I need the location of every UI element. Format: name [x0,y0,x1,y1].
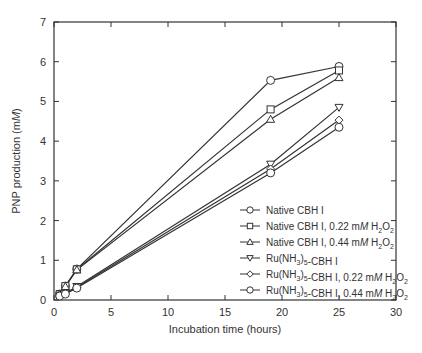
plot-frame [54,22,396,300]
x-tick-label: 15 [219,306,231,318]
x-tick-label: 10 [162,306,174,318]
diamond-marker-icon [247,271,253,277]
legend: Native CBH INative CBH I, 0.22 mM H2O2Na… [240,205,408,301]
legend-item: Native CBH I [240,205,324,216]
line-chart: 05101520253001234567 Incubation time (ho… [0,0,422,353]
legend-item: Ru(NH3)5-CBH I, 0.22 mM H2O2 [240,269,408,285]
x-axis-title: Incubation time (hours) [169,323,282,335]
y-axis-title: PNP production (mM) [10,108,22,214]
y-tick-label: 7 [40,16,46,28]
legend-label: Ru(NH3)5-CBH I, 0.22 mM H2O2 [266,269,408,285]
x-tick-label: 25 [333,306,345,318]
triangle-up-marker-icon [267,115,275,122]
y-tick-label: 0 [40,294,46,306]
y-tick-label: 4 [40,135,46,147]
circle-marker-icon [335,123,343,131]
legend-label: Native CBH I [266,205,324,216]
plot-area-border [54,22,396,300]
circle-marker-icon [267,76,275,84]
square-marker-icon [267,106,274,113]
legend-label: Native CBH I, 0.44 mM H2O2 [266,237,394,250]
legend-item: Ru(NH3)5-CBH I [240,253,338,267]
square-marker-icon [247,223,252,228]
y-tick-label: 1 [40,254,46,266]
x-tick-label: 0 [51,306,57,318]
series-line [60,107,339,295]
circle-marker-icon [247,207,253,213]
legend-item: Native CBH I, 0.44 mM H2O2 [240,237,394,250]
x-tick-label: 30 [390,306,402,318]
circle-marker-icon [267,169,275,177]
y-tick-label: 3 [40,175,46,187]
circle-marker-icon [73,284,81,292]
legend-item: Ru(NH3)5-CBH I, 0.44 mM H2O2 [240,285,408,301]
y-tick-label: 2 [40,215,46,227]
legend-item: Native CBH I, 0.22 mM H2O2 [240,221,394,234]
x-tick-label: 5 [108,306,114,318]
circle-marker-icon [61,290,69,298]
legend-label: Ru(NH3)5-CBH I [266,253,338,267]
legend-label: Ru(NH3)5-CBH I, 0.44 mM H2O2 [266,285,408,301]
legend-label: Native CBH I, 0.22 mM H2O2 [266,221,394,234]
triangle-up-marker-icon [335,74,343,81]
circle-marker-icon [247,287,253,293]
y-tick-label: 5 [40,95,46,107]
y-tick-label: 6 [40,56,46,68]
x-tick-label: 20 [276,306,288,318]
